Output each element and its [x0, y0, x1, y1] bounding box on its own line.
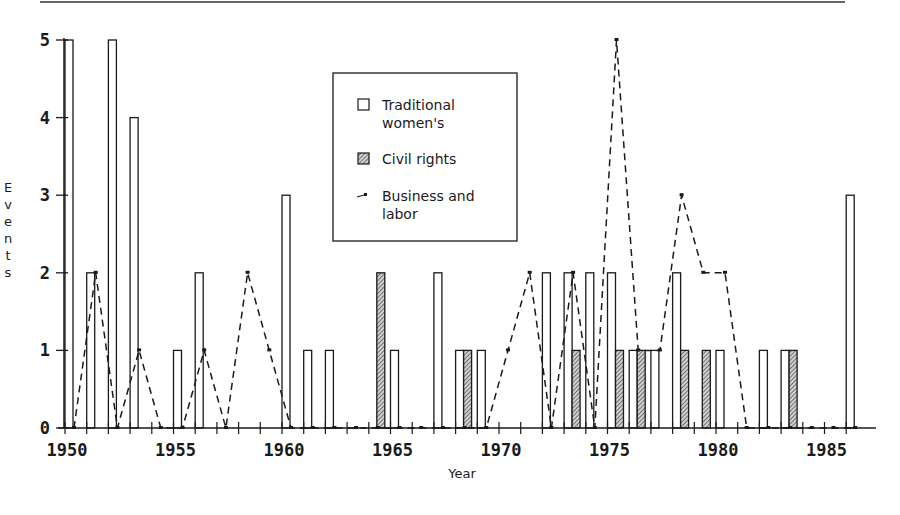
business-point-1953 [137, 348, 141, 351]
bar-traditional-1953 [130, 118, 138, 428]
x-tick-label: 1980 [698, 440, 739, 460]
business-point-1959 [267, 348, 271, 351]
legend-label-traditional-2: women's [382, 115, 444, 131]
bar-civil-rights-1978 [681, 350, 689, 428]
bar-traditional-1967 [434, 273, 442, 428]
y-axis-title-letter: t [5, 248, 10, 263]
y-axis-title-letter: n [4, 231, 12, 246]
y-tick-label: 2 [40, 263, 50, 283]
bar-traditional-1976 [629, 350, 637, 428]
bar-traditional-1975 [608, 273, 616, 428]
bar-civil-rights-1983 [789, 350, 797, 428]
bar-traditional-1972 [542, 273, 550, 428]
y-tick-label: 4 [40, 108, 50, 128]
bar-traditional-1960 [282, 195, 290, 428]
x-tick-label: 1970 [481, 440, 522, 460]
bar-traditional-1955 [174, 350, 182, 428]
bar-civil-rights-1976 [637, 350, 645, 428]
bar-traditional-1973 [564, 273, 572, 428]
chart: 012345 19501955196019651970197519801985 … [0, 0, 900, 515]
business-point-1973 [571, 271, 575, 274]
bar-civil-rights-1975 [616, 350, 624, 428]
legend-swatch-traditional [358, 99, 369, 110]
business-point-1978 [680, 193, 684, 196]
y-axis-title-letter: E [4, 180, 12, 195]
y-axis-title-letter: v [4, 197, 12, 212]
bar-traditional-1951 [87, 273, 95, 428]
bar-traditional-1977 [651, 350, 659, 428]
business-point-1958 [246, 271, 250, 274]
bar-traditional-1978 [673, 273, 681, 428]
legend: Traditional women's Civil rights Busines… [333, 73, 517, 241]
business-point-1977 [658, 348, 662, 351]
bar-traditional-1986 [846, 195, 854, 428]
bar-traditional-1982 [759, 350, 767, 428]
business-point-1956 [202, 348, 206, 351]
legend-swatch-civil-rights [358, 153, 369, 164]
legend-label-traditional-1: Traditional [381, 97, 455, 113]
bar-traditional-1969 [477, 350, 485, 428]
y-tick-label: 3 [40, 185, 50, 205]
bar-traditional-1961 [304, 350, 312, 428]
bar-traditional-1962 [325, 350, 333, 428]
x-tick-label: 1975 [589, 440, 630, 460]
bar-civil-rights-1968 [464, 350, 472, 428]
bar-civil-rights-1979 [702, 350, 710, 428]
bar-traditional-1983 [781, 350, 789, 428]
x-tick-label: 1955 [155, 440, 196, 460]
business-point-1979 [701, 271, 705, 274]
business-point-1970 [506, 348, 510, 351]
business-point-1976 [636, 348, 640, 351]
business-point-1971 [528, 271, 532, 274]
x-axis-title: Year [447, 466, 476, 481]
bar-traditional-1974 [586, 273, 594, 428]
y-axis-title-letter: s [5, 265, 12, 280]
y-axis-title: Events [4, 180, 12, 280]
bar-traditional-1980 [716, 350, 724, 428]
x-tick-label: 1960 [264, 440, 305, 460]
bar-traditional-1956 [195, 273, 203, 428]
y-tick-label: 0 [40, 418, 50, 438]
bar-traditional-1965 [391, 350, 399, 428]
business-point-1975 [615, 38, 619, 41]
y-tick-label: 1 [40, 340, 50, 360]
x-tick-label: 1950 [47, 440, 88, 460]
legend-label-business-2: labor [382, 206, 418, 222]
bar-civil-rights-1964 [377, 273, 385, 428]
bar-traditional-1950 [65, 40, 73, 428]
bar-civil-rights-1973 [572, 350, 580, 428]
business-point-1980 [723, 271, 727, 274]
x-tick-label: 1985 [806, 440, 847, 460]
bar-traditional-1968 [456, 350, 464, 428]
legend-label-civil-rights: Civil rights [382, 151, 456, 167]
legend-label-business-1: Business and [382, 188, 475, 204]
y-axis-title-letter: e [4, 214, 12, 229]
y-tick-label: 5 [40, 30, 50, 50]
business-point-1951 [94, 271, 98, 274]
x-tick-label: 1965 [372, 440, 413, 460]
